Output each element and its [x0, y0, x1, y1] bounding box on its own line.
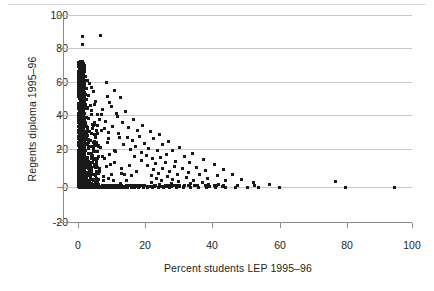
scatter-point: [77, 182, 80, 185]
scatter-point: [79, 165, 82, 168]
scatter-point: [83, 181, 86, 184]
scatter-point: [79, 182, 82, 185]
scatter-point: [77, 88, 80, 91]
x-tick-label-0: 0: [58, 240, 98, 251]
scatter-point: [95, 129, 98, 132]
scatter-point: [96, 150, 99, 153]
scatter-point: [82, 137, 85, 140]
scatter-point: [90, 178, 93, 181]
scatter-point: [95, 181, 98, 184]
scatter-point: [92, 141, 95, 144]
scatter-point: [78, 161, 81, 164]
scatter-point: [80, 87, 83, 90]
scatter-point: [77, 103, 80, 106]
scatter-point: [83, 169, 86, 172]
scatter-point: [82, 109, 85, 112]
scatter-point: [164, 161, 167, 164]
scatter-point: [77, 137, 80, 140]
scatter-point: [82, 99, 85, 102]
scatter-point: [86, 181, 89, 184]
scatter-point: [81, 145, 84, 148]
scatter-point: [78, 155, 81, 158]
scatter-point: [80, 162, 83, 165]
scatter-point: [77, 92, 80, 95]
scatter-point: [80, 162, 83, 165]
scatter-point: [78, 75, 81, 78]
scatter-point: [77, 141, 80, 144]
scatter-point: [79, 86, 82, 89]
scatter-point: [95, 160, 98, 163]
scatter-point: [79, 107, 82, 110]
scatter-point: [85, 133, 88, 136]
scatter-point: [79, 107, 82, 110]
scatter-point: [82, 83, 85, 86]
scatter-point: [82, 101, 85, 104]
scatter-point: [96, 157, 99, 160]
scatter-point: [82, 137, 85, 140]
scatter-point: [83, 118, 86, 121]
scatter-point: [78, 137, 81, 140]
scatter-point: [95, 160, 98, 163]
scatter-point: [82, 85, 85, 88]
scatter-point: [80, 173, 83, 176]
scatter-point: [79, 134, 82, 137]
scatter-point: [81, 93, 84, 96]
scatter-point: [80, 93, 83, 96]
scatter-point: [81, 60, 84, 63]
scatter-point: [80, 118, 83, 121]
scatter-point: [77, 178, 80, 181]
scatter-point: [78, 145, 81, 148]
scatter-point: [90, 157, 93, 160]
scatter-point: [90, 178, 93, 181]
scatter-point: [78, 153, 81, 156]
scatter-point: [125, 179, 128, 182]
scatter-point: [81, 67, 84, 70]
scatter-point: [80, 101, 83, 104]
scatter-point: [87, 172, 90, 175]
scatter-point: [77, 131, 80, 134]
x-tick-label-100: 100: [392, 240, 432, 251]
scatter-point: [80, 161, 83, 164]
scatter-point: [83, 143, 86, 146]
scatter-point: [117, 132, 120, 135]
scatter-point: [84, 156, 87, 159]
scatter-point: [79, 72, 82, 75]
scatter-point: [77, 160, 80, 163]
scatter-point: [77, 131, 80, 134]
scatter-point: [80, 176, 83, 179]
scatter-point: [80, 109, 83, 112]
scatter-point: [108, 153, 111, 156]
scatter-point: [77, 169, 80, 172]
scatter-point: [84, 183, 87, 186]
scatter-point: [82, 165, 85, 168]
scatter-point: [84, 177, 87, 180]
scatter-point: [84, 175, 87, 178]
scatter-point: [79, 163, 82, 166]
scatter-point: [96, 179, 99, 182]
scatter-point: [95, 150, 98, 153]
scatter-point: [78, 154, 81, 157]
scatter-point: [82, 177, 85, 180]
scatter-point: [80, 178, 83, 181]
scatter-point: [81, 162, 84, 165]
scatter-point: [82, 100, 85, 103]
scatter-point: [80, 144, 83, 147]
scatter-point: [79, 120, 82, 123]
scatter-point: [82, 135, 85, 138]
scatter-point: [82, 69, 85, 72]
scatter-plot-figure: Regents diploma 1995–96 Percent students…: [0, 0, 434, 291]
scatter-point: [79, 121, 82, 124]
scatter-point: [77, 102, 80, 105]
scatter-point: [83, 180, 86, 183]
scatter-point: [81, 127, 84, 130]
scatter-point: [79, 143, 82, 146]
scatter-point: [81, 155, 84, 158]
scatter-point: [79, 154, 82, 157]
scatter-point: [77, 161, 80, 164]
scatter-point: [80, 91, 83, 94]
scatter-point: [79, 163, 82, 166]
scatter-point: [83, 84, 86, 87]
y-tick-mark-40: [57, 115, 63, 116]
scatter-point: [77, 121, 80, 124]
scatter-point: [81, 91, 84, 94]
